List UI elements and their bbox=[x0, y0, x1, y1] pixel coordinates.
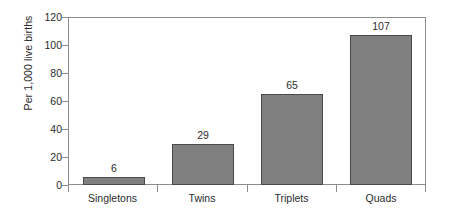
bar-triplets bbox=[261, 94, 323, 185]
bar-value-label-quads: 107 bbox=[350, 21, 412, 32]
x-category-label-twins: Twins bbox=[157, 192, 247, 204]
y-tick-label-40: 40 bbox=[22, 124, 62, 134]
x-category-label-triplets: Triplets bbox=[247, 192, 336, 204]
bar-chart: Per 1,000 live births 120 100 80 60 40 2… bbox=[0, 0, 449, 216]
y-tick-label-100: 100 bbox=[22, 40, 62, 50]
bar-quads bbox=[350, 35, 412, 185]
x-tick-mark-3 bbox=[336, 185, 337, 192]
x-category-label-singletons: Singletons bbox=[68, 192, 157, 204]
y-tick-label-20: 20 bbox=[22, 152, 62, 162]
x-category-label-quads: Quads bbox=[336, 192, 426, 204]
y-tick-label-80: 80 bbox=[22, 68, 62, 78]
bar-value-label-singletons: 6 bbox=[83, 163, 145, 174]
x-tick-mark-0 bbox=[68, 185, 69, 192]
y-tick-label-60: 60 bbox=[22, 96, 62, 106]
bar-singletons bbox=[83, 177, 145, 185]
y-tick-label-120: 120 bbox=[22, 12, 62, 22]
x-tick-mark-2 bbox=[247, 185, 248, 192]
bar-value-label-twins: 29 bbox=[172, 130, 234, 141]
x-tick-mark-4 bbox=[425, 185, 426, 192]
x-tick-mark-1 bbox=[157, 185, 158, 192]
bar-twins bbox=[172, 144, 234, 185]
bar-value-label-triplets: 65 bbox=[261, 80, 323, 91]
y-tick-label-0: 0 bbox=[22, 180, 62, 190]
